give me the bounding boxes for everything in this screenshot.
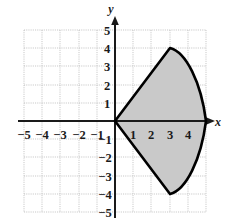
y-tick-label--2: −2 [98,151,111,165]
x-tick-label--4: −4 [35,128,49,142]
y-axis-label: y [106,2,114,16]
y-tick-label--3: −3 [98,170,111,184]
y-tick-label-2: 2 [104,79,110,93]
x-tick-label-3: 3 [167,128,173,142]
y-tick-label--4: −4 [98,188,112,202]
x-tick-label--2: −2 [72,128,85,142]
y-tick-label-3: 3 [104,60,110,74]
x-axis-arrow-icon [206,117,215,125]
x-tick-label--3: −3 [53,128,66,142]
y-tick-label-1: 1 [104,97,110,111]
y-tick-label-4: 4 [104,42,111,56]
y-tick-label-5: 5 [104,24,110,38]
x-tick-label-4: 4 [185,128,192,142]
y-tick-label--1: −1 [98,133,111,147]
x-tick-label-1: 1 [130,128,136,142]
coordinate-graph-figure: x y −5 −4 −3 −2 −1 1 2 3 4 5 4 3 2 1 −1 … [0,0,226,224]
x-tick-label-2: 2 [148,128,154,142]
x-axis-label: x [214,115,221,129]
graph-canvas: x y −5 −4 −3 −2 −1 1 2 3 4 5 4 3 2 1 −1 … [0,0,226,224]
y-axis-arrow-icon [111,16,119,25]
x-tick-label--5: −5 [17,128,30,142]
y-tick-label--5: −5 [98,206,111,220]
